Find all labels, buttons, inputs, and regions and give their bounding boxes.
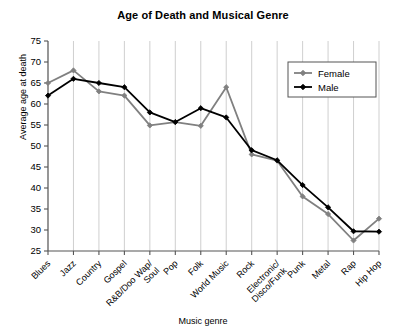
plot-area: 2530354045505560657075 BluesJazzCountryG… — [0, 0, 406, 334]
x-tick-label-line1: Blues — [29, 258, 52, 281]
y-tick-label: 40 — [30, 182, 41, 193]
y-tick-label: 50 — [30, 140, 41, 151]
y-axis-ticks: 2530354045505560657075 — [30, 35, 48, 256]
y-tick-label: 30 — [30, 224, 41, 235]
data-point-male — [96, 80, 101, 85]
x-tick-label-line1: Pop — [161, 258, 179, 276]
x-tick-label: Folk — [186, 258, 205, 277]
x-tick-label-line1: Metal — [310, 258, 333, 281]
legend-label-male: Male — [318, 82, 339, 93]
y-tick-label: 35 — [30, 203, 41, 214]
chart-container: Age of Death and Musical Genre Average a… — [0, 0, 406, 334]
chart-legend: FemaleMale — [288, 62, 376, 97]
x-axis-ticks: BluesJazzCountryGospelR&B/Doo Wap/SoulPo… — [29, 251, 383, 315]
x-tick-label-line1: Hip Hop — [353, 258, 383, 288]
x-tick-label-line1: Country — [74, 258, 104, 288]
x-tick-label: Punk — [285, 258, 307, 280]
y-tick-label: 55 — [30, 119, 41, 130]
y-tick-label: 45 — [30, 161, 41, 172]
y-tick-label: 75 — [30, 35, 41, 46]
x-tick-label: Rap — [339, 258, 358, 277]
x-tick-label: Metal — [310, 258, 333, 281]
data-point-male — [376, 229, 381, 234]
y-tick-label: 25 — [30, 245, 41, 256]
x-tick-label: Hip Hop — [353, 258, 383, 288]
y-tick-label: 65 — [30, 77, 41, 88]
x-tick-label-line1: Rock — [234, 258, 256, 280]
x-tick-label: Jazz — [58, 258, 79, 279]
y-tick-label: 70 — [30, 56, 41, 67]
x-tick-label: Rock — [234, 258, 256, 280]
x-tick-label-line1: Folk — [186, 258, 205, 277]
legend-label-female: Female — [318, 68, 350, 79]
x-tick-label-line1: Punk — [285, 258, 307, 280]
x-tick-label: Country — [74, 258, 104, 288]
x-tick-label-line1: Jazz — [58, 258, 79, 279]
y-tick-label: 60 — [30, 98, 41, 109]
x-tick-label: Pop — [161, 258, 179, 276]
x-tick-label: Blues — [29, 258, 52, 281]
x-tick-label-line1: Rap — [339, 258, 358, 277]
